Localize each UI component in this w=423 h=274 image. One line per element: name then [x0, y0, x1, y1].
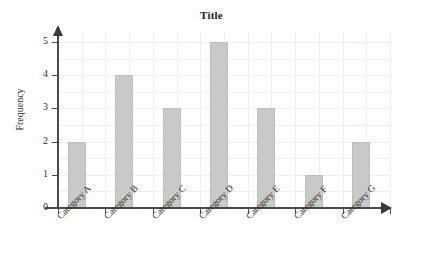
gridline-vertical — [200, 32, 201, 208]
y-axis-title: Frequency — [14, 75, 25, 145]
gridline-vertical — [248, 32, 249, 208]
gridline-vertical — [390, 32, 391, 208]
y-tick-mark — [52, 175, 58, 176]
gridline-vertical — [105, 32, 106, 208]
y-tick-label: 2 — [28, 135, 48, 146]
y-tick-label: 4 — [28, 68, 48, 79]
bar-chart-figure: Title Frequency 012345 Category ACategor… — [0, 0, 423, 274]
y-tick-mark — [52, 42, 58, 43]
gridline-vertical — [153, 32, 154, 208]
y-tick-mark — [52, 75, 58, 76]
bar — [210, 42, 228, 208]
chart-title: Title — [0, 9, 423, 21]
y-tick-label: 3 — [28, 101, 48, 112]
gridline-vertical — [295, 32, 296, 208]
y-tick-label: 5 — [28, 35, 48, 46]
y-axis-arrow-icon — [53, 25, 63, 36]
x-tick-mark — [390, 208, 391, 214]
y-axis-line — [57, 34, 59, 209]
gridline-vertical — [343, 32, 344, 208]
y-tick-mark — [52, 142, 58, 143]
y-tick-label: 1 — [28, 168, 48, 179]
y-tick-mark — [52, 108, 58, 109]
plot-area — [58, 32, 390, 208]
y-tick-label: 0 — [28, 201, 48, 212]
